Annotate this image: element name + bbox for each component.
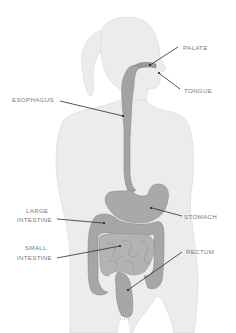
label-esophagus: ESOPHAGUS — [12, 96, 54, 103]
label-tongue: TONGUE — [184, 87, 212, 94]
label-rectum: RECTUM — [186, 248, 214, 255]
palate-dot — [149, 64, 151, 66]
large-intestine-dot — [103, 222, 105, 224]
label-small-intestine-1: SMALL — [25, 244, 47, 251]
label-palate: PALATE — [183, 44, 208, 51]
label-large-intestine-1: LARGE — [26, 207, 48, 214]
label-small-intestine-2: INTESTINE — [17, 254, 52, 261]
tongue-leader — [160, 74, 180, 89]
small-intestine-dot — [119, 245, 121, 247]
digestive-system-diagram: PALATE TONGUE ESOPHAGUS LARGE INTESTINE … — [0, 0, 236, 333]
stomach-dot — [150, 207, 152, 209]
ponytail — [82, 30, 102, 96]
label-stomach: STOMACH — [184, 213, 217, 220]
label-large-intestine-2: INTESTINE — [17, 216, 52, 223]
tongue-dot — [158, 72, 160, 74]
esophagus-dot — [122, 115, 124, 117]
rectum-dot — [127, 289, 129, 291]
